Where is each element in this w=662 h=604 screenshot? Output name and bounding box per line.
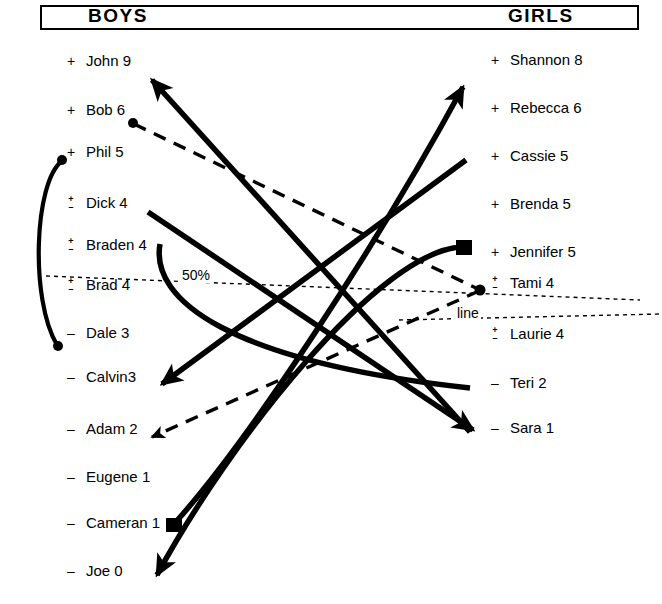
name-label: Joe 0 [86, 563, 123, 579]
name-row[interactable]: –Calvin3 [62, 368, 136, 386]
name-label: Teri 2 [510, 375, 547, 391]
link-braden-to-teri [159, 244, 470, 388]
name-label: Rebecca 6 [510, 100, 582, 116]
name-label: John 9 [86, 53, 131, 69]
name-row[interactable]: –Sara 1 [486, 419, 554, 437]
sign-left-3: +– [62, 194, 80, 212]
name-label: Calvin3 [86, 369, 136, 385]
name-row[interactable]: –Teri 2 [486, 374, 547, 392]
name-label: Adam 2 [86, 421, 138, 437]
sign-right-2: + [486, 149, 504, 163]
name-label: Cameran 1 [86, 515, 160, 531]
sign-left-9: – [62, 470, 80, 484]
name-label: Laurie 4 [510, 326, 564, 342]
ranking-diagram: BOYS GIRLS [0, 0, 662, 604]
sign-left-1: + [62, 103, 80, 117]
name-label: Eugene 1 [86, 469, 150, 485]
name-label: Brenda 5 [510, 196, 571, 212]
sign-left-10: – [62, 516, 80, 530]
name-row[interactable]: +–Dick 4 [62, 194, 128, 212]
name-row[interactable]: +Jennifer 5 [486, 243, 576, 261]
name-row[interactable]: +Phil 5 [62, 143, 124, 161]
sign-left-4: +– [62, 236, 80, 254]
name-label: Tami 4 [510, 275, 554, 291]
sign-left-5: +– [62, 276, 80, 294]
label-line: line [455, 306, 481, 321]
name-label: Shannon 8 [510, 52, 583, 68]
name-row[interactable]: –Eugene 1 [62, 468, 150, 486]
name-label: Bob 6 [86, 102, 125, 118]
sign-left-7: – [62, 370, 80, 384]
name-label: Dick 4 [86, 195, 128, 211]
sign-right-6: +– [486, 325, 504, 343]
name-label: Sara 1 [510, 420, 554, 436]
sign-right-8: – [486, 421, 504, 435]
name-row[interactable]: +–Laurie 4 [486, 325, 564, 343]
sign-left-8: – [62, 422, 80, 436]
sign-right-3: + [486, 197, 504, 211]
sign-right-4: + [486, 245, 504, 259]
name-row[interactable]: –Joe 0 [62, 562, 123, 580]
link-jennifer-to-joe [157, 240, 472, 575]
name-label: Cassie 5 [510, 148, 568, 164]
name-row[interactable]: +Bob 6 [62, 101, 125, 119]
sign-right-0: + [486, 53, 504, 67]
name-label: Braden 4 [86, 237, 147, 253]
name-row[interactable]: +Cassie 5 [486, 147, 568, 165]
name-row[interactable]: –Adam 2 [62, 420, 138, 438]
name-row[interactable]: –Dale 3 [62, 324, 129, 342]
sign-left-2: + [62, 145, 80, 159]
name-row[interactable]: +–Tami 4 [486, 274, 554, 292]
link-dick-to-sara [148, 212, 473, 430]
name-row[interactable]: +–Braden 4 [62, 236, 147, 254]
name-row[interactable]: +Brenda 5 [486, 195, 571, 213]
name-label: Dale 3 [86, 325, 129, 341]
sign-right-1: + [486, 101, 504, 115]
label-50-percent: 50% [180, 268, 212, 283]
sign-right-7: – [486, 376, 504, 390]
link-cameran-to-shannon [166, 87, 463, 532]
name-row[interactable]: +Shannon 8 [486, 51, 583, 69]
name-label: Phil 5 [86, 144, 124, 160]
name-label: Brad 4 [86, 277, 130, 293]
sign-left-6: – [62, 326, 80, 340]
name-row[interactable]: +–Brad 4 [62, 276, 130, 294]
sign-left-0: + [62, 54, 80, 68]
sign-left-11: – [62, 564, 80, 578]
name-row[interactable]: +John 9 [62, 52, 131, 70]
sign-right-5: +– [486, 274, 504, 292]
link-sara-to-john [152, 80, 470, 432]
name-row[interactable]: –Cameran 1 [62, 514, 160, 532]
name-label: Jennifer 5 [510, 244, 576, 260]
name-row[interactable]: +Rebecca 6 [486, 99, 582, 117]
rule-line [399, 314, 660, 320]
